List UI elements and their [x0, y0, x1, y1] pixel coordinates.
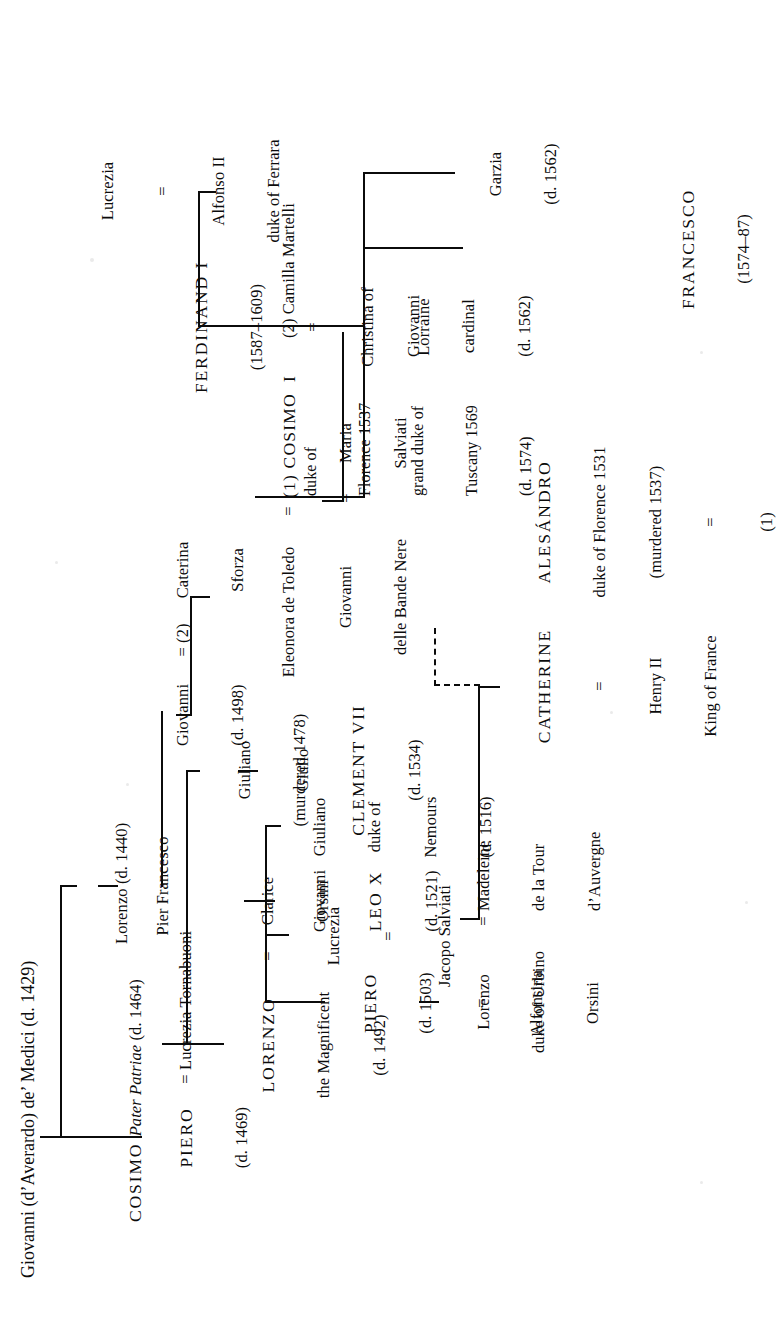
- alfonsina-orsini-line2: Orsini: [584, 940, 602, 1066]
- alesandro-title: duke of Florence 1531: [591, 416, 609, 628]
- genealogy-chart-page: Giovanni (d’Averardo) de’ Medici (d. 142…: [0, 0, 781, 1334]
- connector-catherine-drop: [478, 686, 500, 688]
- lorenzo-magnificent-name: LORENZO: [259, 966, 279, 1124]
- bande-nere-line2: delle Bande Nere: [392, 508, 410, 686]
- alesandro-death: (murdered 1537): [647, 416, 665, 628]
- catherine-equals: =: [591, 606, 609, 766]
- equals-sign: =: [280, 501, 298, 521]
- connector-to-giuliano-1478: [186, 770, 200, 772]
- scan-speckle: [700, 1181, 703, 1184]
- marriage-equals-eleonora-cosimo: =: [243, 501, 335, 521]
- connector-bande-nere-drop: [190, 596, 210, 598]
- catherine-spouse-name: Henry II: [647, 606, 665, 766]
- connector-piero1503-to-lorenzo-urbino: [419, 1001, 439, 1003]
- catherine-spouse-title: King of France: [702, 606, 720, 766]
- garzia-name: Garzia: [487, 122, 505, 226]
- node-catherine-de-medici: CATHERINE = Henry II King of France: [498, 606, 758, 766]
- eleonora-label: Eleonora de Toledo: [280, 522, 298, 702]
- connector-dashed-alesandro-drop: [434, 684, 480, 686]
- connector-to-lorenzo-1440: [60, 885, 77, 887]
- lucrezia-ferrara-name: Lucrezia: [99, 112, 117, 270]
- scan-speckle: [745, 901, 748, 904]
- connector-urbino-to-catherine: [478, 686, 480, 920]
- connector-giuliano-to-giulio: [238, 770, 258, 772]
- ferdinand-name: FERDINAND I: [192, 246, 212, 408]
- bande-nere-line1: Giovanni: [337, 508, 355, 686]
- equals-sign: =: [177, 1070, 195, 1088]
- madeleine-line2: de la Tour: [530, 787, 548, 911]
- alfonso-ii-name: Alfonso II: [210, 112, 228, 270]
- garzia-date: (d. 1562): [542, 122, 560, 226]
- marriage-equals-piero-lucrezia: =: [140, 1070, 232, 1088]
- lucrezia-ferrara-equals: =: [154, 112, 172, 270]
- connector-to-lorenzo-magnificent: [186, 1043, 224, 1045]
- connector-lorenzo-to-pierfrancesco: [98, 885, 118, 887]
- node-francesco-i: FRANCESCO (1574–87) = (1) Joanna of Aust…: [642, 160, 781, 338]
- lorenzo-urbino-title: duke of Urbino: [530, 932, 548, 1072]
- piero-1503-date: (d. 1503): [417, 940, 435, 1066]
- node-ferdinand-i: FERDINAND I (1587–1609) = Christina of L…: [155, 246, 470, 408]
- marriage-equals-giovanni-caterina: = (2): [137, 618, 229, 662]
- equals-sign: =: [259, 946, 277, 966]
- connector-cosimoI-drop: [255, 496, 365, 498]
- giovanni-cardinal-date: (d. 1562): [516, 274, 534, 378]
- chart-title: Giovanni (d’Averardo) de’ Medici (d. 142…: [18, 961, 39, 1278]
- ferdinand-equals: =: [304, 246, 322, 408]
- connector-piero-children-bar: [186, 770, 188, 1045]
- ferdinand-spouse-line1: Christina of: [359, 246, 377, 408]
- connector-to-garzia: [363, 172, 455, 174]
- alfonso-ii-title: duke of Ferrara: [265, 112, 283, 270]
- scan-speckle: [55, 561, 58, 564]
- connector-title-drop: [40, 1136, 62, 1138]
- connector-dashed-to-alesandro: [434, 628, 436, 686]
- node-garzia: Garzia (d. 1562): [450, 122, 598, 226]
- node-eleonora-de-toledo: Eleonora de Toledo: [243, 522, 335, 702]
- lorenzo-urbino-name: Lorenzo: [475, 932, 493, 1072]
- scan-speckle: [700, 351, 703, 354]
- ferdinand-spouse-line2: Lorraine: [415, 246, 433, 408]
- connector-gen1-sibling-bar: [60, 885, 62, 1138]
- ferdinand-dates: (1587–1609): [248, 246, 266, 408]
- connector-lorenzoM-drop: [244, 900, 267, 902]
- francesco-dates: (1574–87): [735, 160, 753, 338]
- marriage-equals-lorenzo-madeleine: =: [438, 911, 530, 931]
- scan-speckle: [126, 783, 129, 786]
- connector-urbino-couple-drop: [460, 918, 480, 920]
- catherine-name: CATHERINE: [535, 606, 555, 766]
- node-madeleine-de-la-tour: Madeleine de la Tour d’Auvergne: [438, 787, 641, 911]
- connector-to-bande-nere: [190, 596, 192, 716]
- node-lucrezia-ferrara: Lucrezia = Alfonso II duke of Ferrara: [62, 112, 321, 270]
- connector-lorenzoM-children-bar: [265, 825, 267, 1003]
- node-lorenzo-duke-of-urbino: Lorenzo duke of Urbino: [438, 932, 586, 1072]
- connector-piero-drop: [162, 1043, 188, 1045]
- alesandro-marriage-index: (1): [758, 416, 776, 628]
- alesandro-equals: =: [702, 416, 720, 628]
- madeleine-line3: d’Auvergne: [586, 787, 604, 911]
- piero-1469-name: PIERO: [177, 1089, 197, 1186]
- piero-1503-name: PIERO: [361, 940, 381, 1066]
- francesco-name: FRANCESCO: [679, 160, 699, 338]
- connector-cosimo-to-piero: [118, 1136, 142, 1138]
